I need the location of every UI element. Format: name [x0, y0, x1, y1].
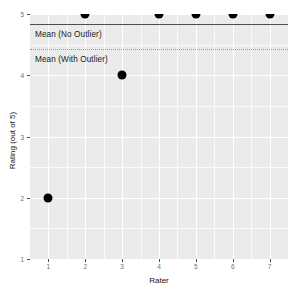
- gridline-x-minor: [141, 14, 142, 259]
- gridline-x-major: [48, 14, 49, 259]
- gridline-x-minor: [177, 14, 178, 259]
- rating-scatter-chart: Mean (No Outlier) Mean (With Outlier) 12…: [0, 0, 302, 301]
- gridline-x-minor: [251, 14, 252, 259]
- x-tick-mark: [48, 259, 49, 262]
- x-tick-label: 5: [194, 263, 198, 270]
- y-tick-label: 5: [0, 11, 24, 18]
- x-tick-label: 4: [157, 263, 161, 270]
- x-tick-mark: [85, 259, 86, 262]
- x-tick-mark: [233, 259, 234, 262]
- x-tick-label: 3: [120, 263, 124, 270]
- mean-with-outlier-line: [30, 49, 288, 50]
- x-tick-mark: [196, 259, 197, 262]
- x-tick-mark: [122, 259, 123, 262]
- data-point: [118, 71, 127, 80]
- gridline-x-minor: [104, 14, 105, 259]
- x-tick-label: 1: [47, 263, 51, 270]
- y-tick-mark: [27, 259, 30, 260]
- x-tick-mark: [159, 259, 160, 262]
- x-tick-label: 2: [83, 263, 87, 270]
- gridline-x-minor: [214, 14, 215, 259]
- gridline-x-major: [233, 14, 234, 259]
- y-tick-mark: [27, 137, 30, 138]
- data-point: [191, 14, 200, 19]
- y-tick-mark: [27, 14, 30, 15]
- y-tick-mark: [27, 75, 30, 76]
- gridline-x-major: [270, 14, 271, 259]
- gridline-x-minor: [67, 14, 68, 259]
- data-point: [228, 14, 237, 19]
- y-tick-label: 4: [0, 72, 24, 79]
- data-point: [155, 14, 164, 19]
- y-axis-title: Rating (out of 5): [8, 81, 17, 201]
- gridline-x-major: [85, 14, 86, 259]
- x-axis-title: Rater: [30, 276, 288, 285]
- y-tick-label: 1: [0, 256, 24, 263]
- data-point: [81, 14, 90, 19]
- data-point: [44, 193, 53, 202]
- mean-no-outlier-line: [30, 24, 288, 25]
- x-tick-label: 7: [268, 263, 272, 270]
- x-tick-mark: [270, 259, 271, 262]
- data-point: [265, 14, 274, 19]
- mean-no-outlier-label: Mean (No Outlier): [35, 30, 102, 39]
- plot-panel: Mean (No Outlier) Mean (With Outlier): [30, 14, 288, 259]
- x-tick-label: 6: [231, 263, 235, 270]
- gridline-x-major: [122, 14, 123, 259]
- gridline-x-major: [196, 14, 197, 259]
- mean-with-outlier-label: Mean (With Outlier): [35, 55, 108, 64]
- y-tick-mark: [27, 198, 30, 199]
- gridline-x-major: [159, 14, 160, 259]
